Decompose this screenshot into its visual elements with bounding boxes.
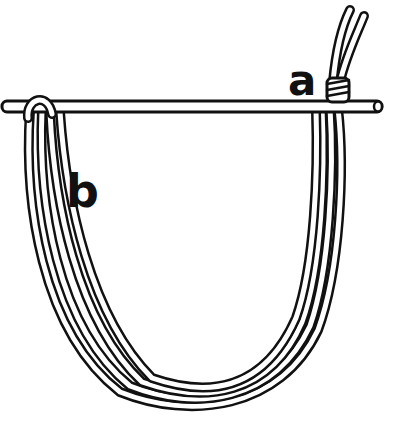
hanging-loop: [29, 108, 341, 406]
diagram-canvas: a b: [0, 0, 393, 430]
stick: [2, 101, 382, 112]
binding-wraps: [327, 78, 349, 102]
cord-diagram: [0, 0, 393, 430]
label-a: a: [288, 60, 316, 102]
label-b: b: [66, 168, 99, 214]
free-ends: [333, 10, 364, 82]
